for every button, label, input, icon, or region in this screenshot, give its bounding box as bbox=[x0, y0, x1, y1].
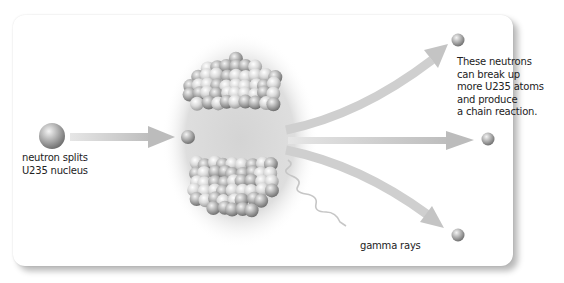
neutron-split-label: neutron splits U235 nucleus bbox=[22, 152, 88, 177]
chain-line-5: a chain reaction. bbox=[457, 106, 544, 119]
incoming-arrow-icon bbox=[70, 126, 175, 148]
neutron-split-line-2: U235 nucleus bbox=[22, 165, 88, 178]
neutron-split-line-1: neutron splits bbox=[22, 152, 88, 165]
fission-diagram bbox=[0, 0, 564, 283]
chain-line-1: These neutrons bbox=[457, 56, 544, 69]
released-neutron-top-icon bbox=[452, 34, 465, 47]
impacting-neutron-icon bbox=[181, 130, 195, 144]
chain-reaction-label: These neutrons can break up more U235 at… bbox=[457, 56, 544, 119]
chain-line-2: can break up bbox=[457, 69, 544, 82]
released-neutron-bottom-icon bbox=[452, 229, 465, 242]
incoming-neutron-icon bbox=[39, 123, 65, 149]
gamma-rays-label: gamma rays bbox=[360, 240, 421, 253]
chain-line-3: more U235 atoms bbox=[457, 81, 544, 94]
released-neutron-middle-icon bbox=[482, 133, 495, 146]
chain-line-4: and produce bbox=[457, 94, 544, 107]
